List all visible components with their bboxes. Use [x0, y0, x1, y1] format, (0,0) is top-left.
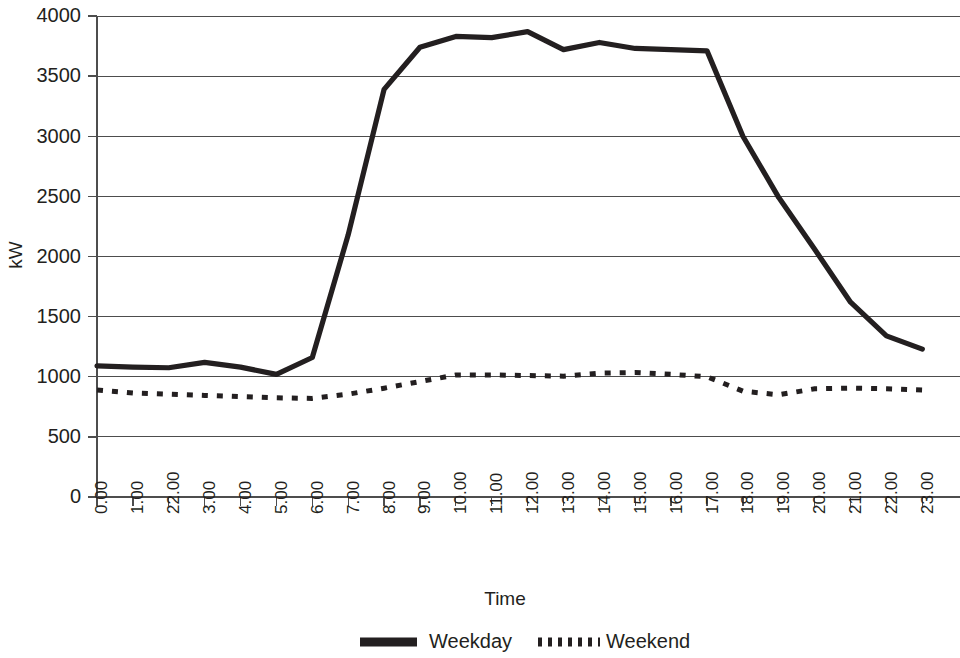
x-tick-label: 0.00 — [92, 481, 111, 514]
x-tick-label: 6.00 — [308, 481, 327, 514]
y-tick-label: 4000 — [37, 4, 82, 26]
y-axis-title: kW — [5, 241, 26, 269]
series-line-weekday — [97, 32, 922, 375]
y-tick-labels-group: 05001000150020002500300035004000 — [37, 4, 82, 507]
x-tick-label: 8.00 — [380, 481, 399, 514]
y-tick-label: 1000 — [37, 365, 82, 387]
y-tick-label: 0 — [70, 485, 81, 507]
chart-legend: Weekday Weekend — [360, 630, 690, 652]
x-tick-label: 12.00 — [523, 471, 542, 514]
x-tick-label: 4.00 — [236, 481, 255, 514]
chart-container: 05001000150020002500300035004000 0.001.0… — [0, 0, 960, 658]
x-tick-label: 20.00 — [810, 471, 829, 514]
x-axis-title: Time — [484, 588, 526, 609]
x-tick-label: 19.00 — [774, 471, 793, 514]
x-tick-label: 23.00 — [918, 471, 937, 514]
x-tick-label: 22.00 — [164, 471, 183, 514]
x-tick-label: 21.00 — [846, 471, 865, 514]
legend-label-weekend: Weekend — [606, 630, 690, 652]
line-chart: 05001000150020002500300035004000 0.001.0… — [0, 0, 960, 658]
x-tick-label: 14.00 — [595, 471, 614, 514]
legend-label-weekday: Weekday — [429, 630, 512, 652]
y-tick-label: 500 — [48, 425, 81, 447]
x-tick-label: 15.00 — [631, 471, 650, 514]
x-tick-label: 13.00 — [559, 471, 578, 514]
x-tick-label: 3.00 — [200, 481, 219, 514]
y-tick-label: 3000 — [37, 125, 82, 147]
y-tick-label: 3500 — [37, 64, 82, 86]
x-tickmarks-group — [97, 497, 922, 506]
y-tickmarks-group — [88, 16, 97, 497]
x-tick-label: 1.00 — [128, 481, 147, 514]
x-tick-label: 5.00 — [272, 481, 291, 514]
x-tick-label: 10.00 — [451, 471, 470, 514]
x-tick-label: 18.00 — [738, 471, 757, 514]
x-tick-label: 17.00 — [703, 471, 722, 514]
y-tick-label: 2500 — [37, 185, 82, 207]
x-tick-label: 7.00 — [344, 481, 363, 514]
x-tick-label: 22.00 — [882, 471, 901, 514]
x-tick-label: 16.00 — [667, 471, 686, 514]
y-tick-label: 1500 — [37, 305, 82, 327]
y-tick-label: 2000 — [37, 245, 82, 267]
x-tick-label: 9.00 — [415, 481, 434, 514]
x-tick-labels-group: 0.001.0022.003.004.005.006.007.008.009.0… — [92, 471, 936, 514]
x-tick-label: 11.00 — [487, 473, 506, 514]
gridlines-group — [97, 16, 960, 497]
